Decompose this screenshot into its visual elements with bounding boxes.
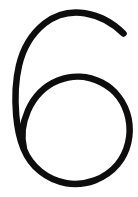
digit-six-glyph — [0, 0, 138, 197]
glyph-canvas: 6 — [0, 0, 138, 197]
